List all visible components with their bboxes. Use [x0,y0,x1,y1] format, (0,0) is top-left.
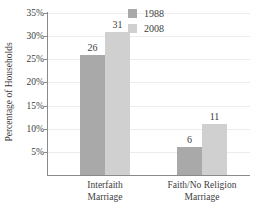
bar-value-label: 26 [80,42,105,53]
x-axis-line [47,175,250,176]
gridline [48,36,250,37]
bar-value-label: 11 [202,111,227,122]
gridline [48,106,250,107]
x-axis-category-label-line: Faith/No Religion [147,180,257,192]
legend-item: 1988 [128,6,194,21]
bar [105,32,130,175]
y-axis-tick-label: 5% [14,147,44,157]
legend-label: 2008 [144,23,164,34]
y-axis-tick-label: 20% [14,77,44,87]
y-axis-tick-label: 10% [14,124,44,134]
gridline [48,82,250,83]
gridline [48,59,250,60]
y-axis-tick-label: 15% [14,101,44,111]
x-axis-category-label: InterfaithMarriage [50,180,160,203]
legend: 19882008 [128,6,194,36]
legend-swatch-icon [128,9,137,18]
bar [177,147,202,175]
y-axis-tick-labels: 5%10%15%20%25%30%35% [12,12,44,176]
bar [80,55,105,175]
y-axis-tick-label: 35% [14,8,44,18]
legend-item: 2008 [128,21,194,36]
y-axis-tick-label: 25% [14,54,44,64]
bar-value-label: 31 [105,19,130,30]
legend-swatch-icon [128,24,137,33]
bar [202,124,227,175]
x-axis-category-label-line: Marriage [50,192,160,204]
y-axis-tick-label: 30% [14,31,44,41]
x-axis-category-label-line: Interfaith [50,180,160,192]
y-axis-line [47,12,48,176]
bar-value-label: 6 [177,134,202,145]
bar-chart: Percentage of Households 5%10%15%20%25%3… [0,0,260,210]
plot-area: 2631611 [47,12,250,176]
x-axis-category-label-line: Marriage [147,192,257,204]
legend-label: 1988 [144,8,164,19]
x-axis-category-label: Faith/No ReligionMarriage [147,180,257,203]
